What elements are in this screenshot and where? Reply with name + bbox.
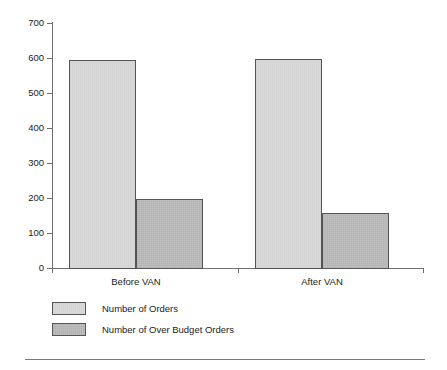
bar-after-van-number-of-orders	[255, 59, 322, 269]
y-tick-label-500-box: 500	[0, 88, 44, 98]
y-tick-label-400: 400	[2, 123, 44, 133]
x-category-label-before-van: Before VAN	[66, 276, 206, 287]
y-tick-100	[47, 233, 53, 234]
y-tick-label-200: 200	[2, 193, 44, 203]
y-tick-label-600: 600	[2, 53, 44, 63]
y-tick-label-0: 0	[2, 263, 44, 273]
y-tick-label-200-box: 200	[0, 193, 44, 203]
plot-area: 0 100 200 300 400 500 600 700	[0, 0, 447, 290]
y-tick-600	[47, 58, 53, 59]
bar-before-van-number-of-over-budget-orders	[136, 199, 203, 269]
y-axis-line	[52, 22, 53, 269]
y-tick-label-100-box: 100	[0, 228, 44, 238]
y-tick-label-700-box: 700	[0, 18, 44, 28]
y-tick-200	[47, 198, 53, 199]
legend-item-number-of-over-budget-orders: Number of Over Budget Orders	[52, 321, 382, 342]
y-tick-400	[47, 128, 53, 129]
y-tick-label-400-box: 400	[0, 123, 44, 133]
y-tick-label-600-box: 600	[0, 53, 44, 63]
y-tick-label-0-box: 0	[0, 263, 44, 273]
y-tick-500	[47, 93, 53, 94]
bar-chart-figure: 0 100 200 300 400 500 600 700	[0, 0, 447, 370]
legend-item-number-of-orders: Number of Orders	[52, 300, 382, 321]
bar-before-van-number-of-orders	[69, 60, 136, 269]
x-category-label-after-van: After VAN	[252, 276, 392, 287]
y-tick-label-500: 500	[2, 88, 44, 98]
legend-swatch-number-of-orders	[52, 302, 86, 315]
y-tick-label-700: 700	[2, 18, 44, 28]
x-tick-right-edge	[423, 268, 424, 273]
x-tick-left-edge	[52, 268, 53, 273]
y-tick-300	[47, 163, 53, 164]
bar-after-van-number-of-over-budget-orders	[322, 213, 389, 269]
y-tick-label-100: 100	[2, 228, 44, 238]
y-tick-label-300: 300	[2, 158, 44, 168]
legend-label-number-of-over-budget-orders: Number of Over Budget Orders	[102, 321, 234, 338]
y-tick-label-300-box: 300	[0, 158, 44, 168]
y-tick-700	[47, 23, 53, 24]
x-tick-group-divider	[238, 268, 239, 273]
legend-swatch-number-of-over-budget-orders	[52, 323, 86, 336]
legend-label-number-of-orders: Number of Orders	[102, 300, 178, 317]
chart-legend: Number of Orders Number of Over Budget O…	[52, 300, 382, 342]
footer-divider	[25, 359, 425, 360]
